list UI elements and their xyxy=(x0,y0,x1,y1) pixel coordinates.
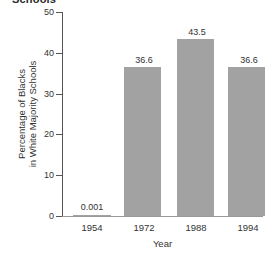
bar-group-1972[interactable]: 36.6 xyxy=(122,12,166,216)
y-tick-mark-50 xyxy=(56,12,62,13)
x-tick-label-1994: 1994 xyxy=(218,222,270,233)
x-axis-title: Year xyxy=(62,238,263,249)
bar-value-1988: 43.5 xyxy=(167,27,227,37)
bar-value-1972: 36.6 xyxy=(114,55,174,65)
chart-title: Schools xyxy=(12,0,56,5)
y-tick-mark-30 xyxy=(56,94,62,95)
bar-chart: Schools 0 10 20 30 40 50 Percentage of B… xyxy=(0,0,270,256)
bar-group-1994[interactable]: 36.6 xyxy=(227,12,270,216)
y-axis-title-line1: Percentage of Blacks xyxy=(16,12,27,216)
bar-1994[interactable] xyxy=(228,67,265,216)
bar-1954[interactable] xyxy=(73,215,111,217)
bar-1988[interactable] xyxy=(177,39,214,216)
bar-value-1954: 0.001 xyxy=(62,202,122,212)
x-axis-line xyxy=(62,216,263,217)
x-tick-label-1954: 1954 xyxy=(62,222,122,233)
y-tick-mark-20 xyxy=(56,134,62,135)
y-tick-mark-0 xyxy=(56,216,62,217)
bar-group-1988[interactable]: 43.5 xyxy=(175,12,219,216)
x-tick-label-1988: 1988 xyxy=(166,222,226,233)
y-tick-mark-10 xyxy=(56,175,62,176)
y-tick-mark-40 xyxy=(56,53,62,54)
bar-1972[interactable] xyxy=(124,67,161,216)
y-axis-title: Percentage of Blacks in White Majority S… xyxy=(16,12,42,216)
x-tick-label-1972: 1972 xyxy=(114,222,174,233)
bar-group-1954[interactable]: 0.001 xyxy=(70,12,114,216)
bar-value-1994: 36.6 xyxy=(219,55,270,65)
y-axis-title-line2: in White Majority Schools xyxy=(27,12,38,216)
y-axis-line xyxy=(62,12,63,217)
